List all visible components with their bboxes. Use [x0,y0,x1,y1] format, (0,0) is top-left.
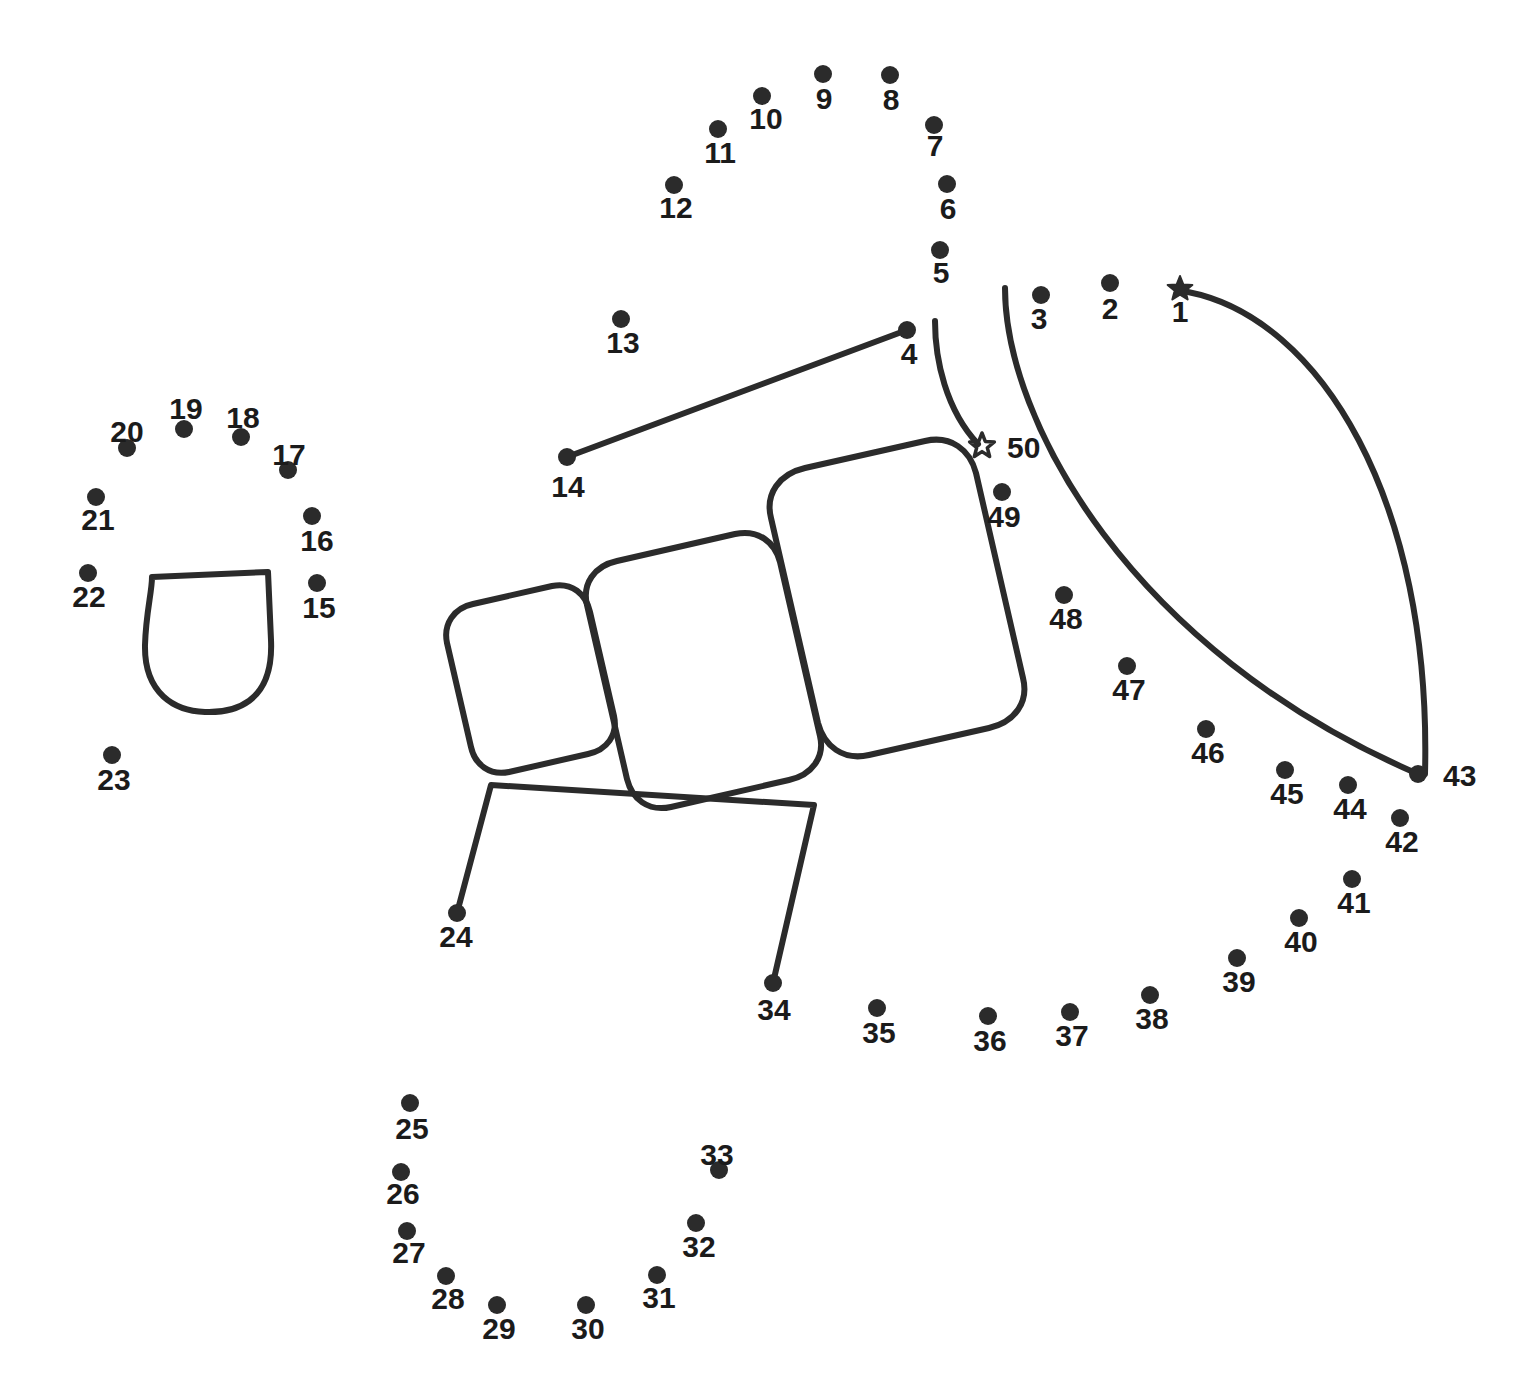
dot-number-label: 14 [551,470,585,503]
dot-number-label: 48 [1049,602,1082,635]
dot-number-label: 7 [927,129,944,162]
dot-number-label: 31 [642,1281,675,1314]
dot-number-label: 4 [901,337,918,370]
dot-number-label: 3 [1031,302,1048,335]
drawn-shapes-layer [145,288,1425,983]
dot-number-label: 22 [72,580,105,613]
puzzle-dot[interactable] [401,1094,419,1112]
dot-number-label: 43 [1443,759,1476,792]
dot-number-label: 18 [226,401,259,434]
puzzle-dot[interactable] [764,974,782,992]
puzzle-dot[interactable] [938,175,956,193]
puzzle-dot[interactable] [814,65,832,83]
dot-labels-layer: 1234567891011121314151617181920212223242… [72,82,1476,1345]
dot-number-label: 36 [973,1024,1006,1057]
dot-number-label: 49 [987,500,1020,533]
dot-number-label: 47 [1112,673,1145,706]
dot-number-label: 30 [571,1312,604,1345]
dot-number-label: 24 [439,920,473,953]
puzzle-dot[interactable] [881,66,899,84]
dot-number-label: 40 [1284,925,1317,958]
dot-number-label: 11 [704,136,736,169]
outer-arc-3-to-43 [1005,288,1418,774]
puzzle-page: 1234567891011121314151617181920212223242… [0,0,1522,1389]
dot-number-label: 21 [81,503,114,536]
dot-number-label: 25 [395,1112,428,1145]
puzzle-canvas: 1234567891011121314151617181920212223242… [0,0,1522,1389]
puzzle-dot[interactable] [979,1007,997,1025]
dot-number-label: 9 [816,82,833,115]
puzzle-dot[interactable] [308,574,326,592]
puzzle-dot[interactable] [303,507,321,525]
dot-number-label: 23 [97,763,130,796]
dot-number-label: 38 [1135,1002,1168,1035]
puzzle-dot[interactable] [993,483,1011,501]
dot-number-label: 19 [169,392,202,425]
dot-number-label: 2 [1102,292,1119,325]
dot-number-label: 28 [431,1282,464,1315]
dot-number-label: 12 [659,191,692,224]
dot-number-label: 32 [682,1230,715,1263]
dot-number-label: 41 [1337,886,1370,919]
open-trapezoid-24-to-34 [457,785,814,983]
puzzle-dot[interactable] [1409,765,1427,783]
puzzle-dot[interactable] [558,448,576,466]
dot-number-label: 50 [1007,431,1040,464]
bucket-outline [145,572,271,712]
dot-number-label: 34 [757,993,791,1026]
dot-number-label: 17 [272,438,305,471]
dot-number-label: 35 [862,1016,895,1049]
dot-number-label: 5 [933,256,950,289]
inner-curve-to-star-50 [935,321,978,444]
dot-number-label: 39 [1222,965,1255,998]
large-rounded-square [770,440,1025,757]
dot-number-label: 46 [1191,736,1224,769]
dot-number-label: 42 [1385,825,1418,858]
dot-number-label: 15 [302,591,335,624]
dot-number-label: 37 [1055,1019,1088,1052]
puzzle-dot[interactable] [868,999,886,1017]
dot-number-label: 26 [386,1177,419,1210]
big-arc-1-to-43 [1188,292,1425,774]
dot-number-label: 16 [300,524,333,557]
dot-number-label: 45 [1270,777,1303,810]
dot-number-label: 33 [700,1138,733,1171]
dot-number-label: 20 [110,415,143,448]
dot-number-label: 6 [940,192,957,225]
dot-number-label: 8 [883,83,900,116]
dot-number-label: 1 [1172,295,1189,328]
dot-number-label: 10 [749,102,782,135]
puzzle-dot[interactable] [1101,274,1119,292]
puzzle-dot[interactable] [103,746,121,764]
dot-number-label: 27 [392,1236,425,1269]
dot-number-label: 29 [482,1312,515,1345]
dot-number-label: 44 [1333,792,1367,825]
dots-layer [79,65,1427,1314]
dot-number-label: 13 [606,326,639,359]
